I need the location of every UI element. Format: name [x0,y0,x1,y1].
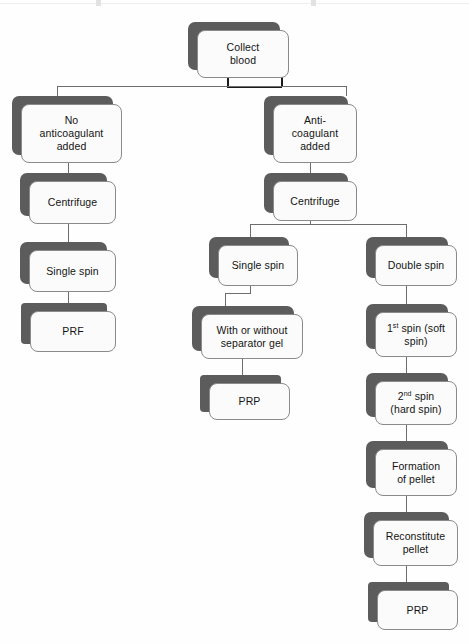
node-label-line1: Collect [227,41,260,53]
node-label-line2: coagulant [292,127,338,139]
node-face: Centrifuge [29,181,116,224]
node-face: With or without separator gel [201,314,303,359]
node-label-line2: pellet [403,543,429,555]
node-label: Centrifuge [48,196,97,209]
node-centrifuge-right[interactable]: Centrifuge [264,173,348,213]
node-label: PRP [407,604,429,617]
node-anticoagulant-added[interactable]: Anti- coagulant added [264,96,348,155]
node-double-spin[interactable]: Double spin [366,237,448,278]
node-label-line2: anticoagulant [40,127,104,139]
node-face: Centrifuge [273,181,357,221]
node-face: 1st spin (soft spin) [375,312,457,357]
connector-to-anticoag [346,86,347,96]
connector-doublespin-firstspin [406,286,407,304]
node-face: Single spin [218,245,298,286]
scan-artifact-mark [96,0,101,6]
connector-secondspin-formation [406,425,407,441]
connector-to-no-anticoag [57,86,58,96]
connector-gel-prp [242,359,243,375]
node-face: Collect blood [197,30,289,78]
node-face: Reconstitute pellet [373,520,458,566]
connector-reconstitute-prp [406,566,407,582]
node-label: PRP [239,395,261,408]
node-label-line3: added [300,140,330,152]
node-label-line2: spin) [404,335,427,347]
node-label-line2: (hard spin) [390,403,441,415]
node-face: Double spin [375,245,457,286]
node-face: PRF [30,311,116,352]
node-prp-right[interactable]: PRP [368,582,449,622]
node-label: PRF [62,325,83,338]
node-reconstitute-pellet[interactable]: Reconstitute pellet [364,512,449,558]
node-face: 2nd spin (hard spin) [375,381,457,425]
node-label-ordinal: nd [404,390,412,397]
node-label-line3: added [57,140,87,152]
node-face: Single spin [29,250,116,292]
node-no-anticoagulant-added[interactable]: No anticoagulant added [12,96,113,155]
node-label-line1: Anti- [304,114,326,126]
connector-firstspin-secondspin [406,357,407,373]
node-label: Double spin [388,259,445,272]
node-label: Single spin [232,259,284,272]
node-label-line1: Formation [392,460,440,472]
node-label-line1: spin [412,390,435,402]
node-face: Formation of pellet [375,449,457,496]
node-label-line2: blood [230,54,256,66]
node-second-spin[interactable]: 2nd spin (hard spin) [366,373,448,417]
node-prp-middle[interactable]: PRP [200,375,281,412]
node-label-line1: No [65,114,79,126]
connector-level1-bar [57,86,347,87]
connector-to-separator-gel [225,293,226,306]
node-separator-gel[interactable]: With or without separator gel [192,306,294,351]
connector-formation-reconstitute [406,496,407,512]
node-face: PRP [209,383,290,420]
scan-artifact-line [0,3,469,4]
node-label: Single spin [46,265,98,278]
node-formation-of-pellet[interactable]: Formation of pellet [366,441,448,488]
connector-to-double-spin [406,224,407,237]
node-label: Centrifuge [290,195,339,208]
node-prf[interactable]: PRF [21,303,107,344]
flowchart-canvas: Collect blood No anticoagulant added Ant… [0,0,469,644]
node-face: PRP [377,590,458,630]
node-face: No anticoagulant added [21,104,122,163]
node-face: Anti- coagulant added [273,104,357,163]
connector-to-single-spin-mid [250,224,251,237]
node-label-line1: With or without [217,324,288,336]
connector-level2-bar [250,224,406,225]
scan-artifact-mark [311,0,316,6]
node-label-line1: Reconstitute [386,530,446,542]
node-label-line2: separator gel [221,337,284,349]
node-label-line1: spin (soft [398,322,445,334]
node-single-spin-middle[interactable]: Single spin [209,237,289,278]
node-label-line2: of pellet [397,473,435,485]
node-centrifuge-left[interactable]: Centrifuge [20,173,107,216]
connector-centrifuge-singlespin [68,224,69,242]
node-single-spin-left[interactable]: Single spin [20,242,107,284]
node-first-spin[interactable]: 1st spin (soft spin) [366,304,448,349]
node-collect-blood[interactable]: Collect blood [188,22,280,70]
connector-singlespinmid-jog [225,293,251,294]
